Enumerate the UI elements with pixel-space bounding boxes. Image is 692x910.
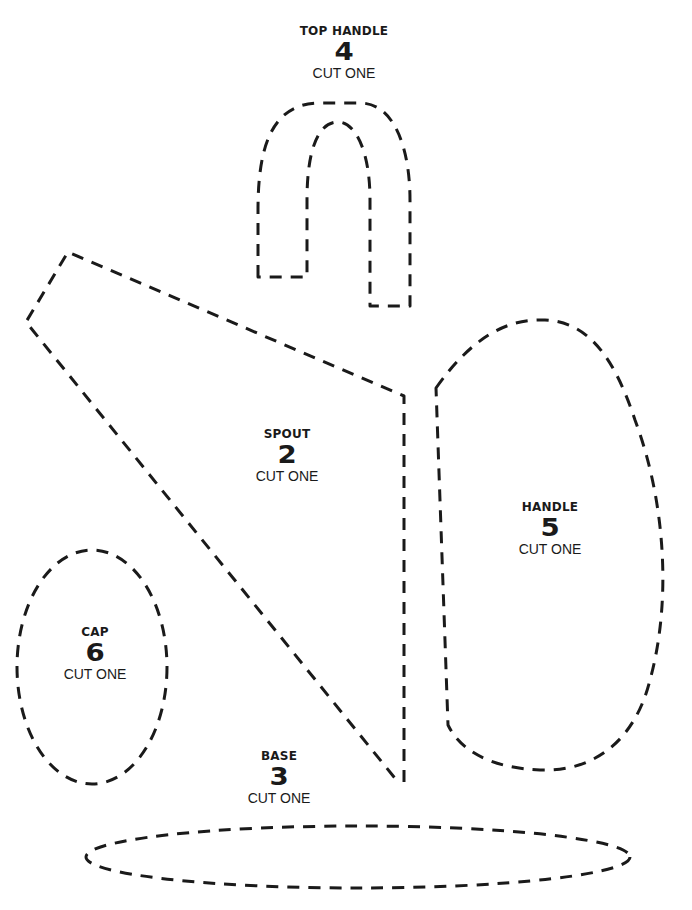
piece-number: 2 <box>251 442 323 468</box>
piece-quantity: CUT ONE <box>519 541 582 558</box>
piece-quantity: CUT ONE <box>64 666 127 683</box>
piece-quantity: CUT ONE <box>256 468 319 485</box>
piece-number: 5 <box>514 515 586 541</box>
piece-number: 6 <box>59 640 131 666</box>
piece-name: BASE <box>248 749 311 764</box>
piece-number: 3 <box>243 764 315 790</box>
piece-quantity: CUT ONE <box>300 65 389 82</box>
pattern-sheet <box>0 0 692 910</box>
piece-number: 4 <box>293 39 395 65</box>
piece-name: HANDLE <box>519 500 582 515</box>
piece-name: TOP HANDLE <box>300 24 389 39</box>
piece-label-cap: CAP 6 CUT ONE <box>64 625 127 683</box>
top-handle-outline <box>258 103 410 306</box>
piece-quantity: CUT ONE <box>248 790 311 807</box>
spout-outline <box>26 252 404 782</box>
piece-label-handle: HANDLE 5 CUT ONE <box>519 500 582 558</box>
piece-label-top-handle: TOP HANDLE 4 CUT ONE <box>300 24 389 82</box>
base-outline <box>86 826 630 888</box>
piece-label-base: BASE 3 CUT ONE <box>248 749 311 807</box>
piece-name: SPOUT <box>256 427 319 442</box>
piece-name: CAP <box>64 625 127 640</box>
piece-label-spout: SPOUT 2 CUT ONE <box>256 427 319 485</box>
